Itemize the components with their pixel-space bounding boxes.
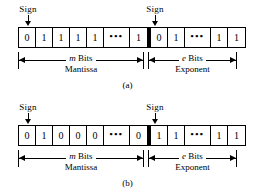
dimension-label-top: e Bits [179, 53, 206, 64]
bit-cell-ellipsis: ••• [104, 126, 130, 145]
dimension-label-bottom: Mantissa [65, 162, 98, 173]
dimension-mantissa-b: m Bits Mantissa [18, 150, 144, 176]
dimension-label-bottom: Mantissa [65, 64, 98, 75]
bit-cell: 0 [53, 126, 70, 145]
dimension-labels: m Bits Mantissa [18, 53, 144, 75]
bit-cell: 1 [36, 126, 53, 145]
bit-cell: 1 [228, 28, 245, 47]
sign-label-mantissa-b: Sign [19, 102, 36, 112]
bit-row-b: 0 1 0 0 0 ••• 0 1 1 ••• 1 1 [18, 125, 246, 146]
bit-cell: 0 [70, 126, 87, 145]
bit-cell: 1 [53, 28, 70, 47]
bit-cell: 1 [211, 126, 228, 145]
sign-callout-mantissa-a: Sign [8, 4, 48, 26]
dimension-exponent-a: e Bits Exponent [148, 52, 237, 78]
sign-label-mantissa-a: Sign [19, 4, 36, 14]
figure-b: Sign Sign 0 1 0 0 0 ••• 0 1 1 ••• 1 1 [0, 98, 255, 196]
dimension-area-b: m Bits Mantissa e Bits Exponent [18, 150, 237, 176]
down-arrow-icon [152, 15, 159, 26]
dimension-labels: e Bits Exponent [148, 53, 237, 75]
bit-cell: 1 [211, 28, 228, 47]
bit-cell: 1 [168, 126, 185, 145]
bit-cell-ellipsis: ••• [185, 28, 211, 47]
sign-label-exponent-a: Sign [146, 4, 163, 14]
down-arrow-icon [25, 113, 32, 124]
dimension-label-top: e Bits [179, 151, 206, 162]
dimension-label-top: m Bits [66, 151, 95, 162]
down-arrow-icon [152, 113, 159, 124]
sign-callout-exponent-b: Sign [135, 102, 175, 124]
bit-cell-ellipsis: ••• [104, 28, 130, 47]
figure-caption-a: (a) [0, 80, 255, 91]
bit-cell: 1 [87, 28, 104, 47]
bit-cell: 0 [19, 126, 36, 145]
sign-callout-mantissa-b: Sign [8, 102, 48, 124]
dimension-label-top: m Bits [66, 53, 95, 64]
dimension-label-bottom: Exponent [175, 64, 210, 75]
dimension-exponent-b: e Bits Exponent [148, 150, 237, 176]
bit-cell: 1 [70, 28, 87, 47]
dimension-label-bottom: Exponent [175, 162, 210, 173]
bit-cell-ellipsis: ••• [185, 126, 211, 145]
down-arrow-icon [25, 15, 32, 26]
bit-cell: 1 [130, 28, 147, 47]
bit-cell: 0 [19, 28, 36, 47]
figure-a: Sign Sign 0 1 1 1 1 ••• 1 0 1 ••• 1 1 [0, 0, 255, 98]
dimension-labels: m Bits Mantissa [18, 151, 144, 173]
bit-cell: 1 [228, 126, 245, 145]
dimension-mantissa-a: m Bits Mantissa [18, 52, 144, 78]
figure-caption-b: (b) [0, 178, 255, 189]
bit-row-a: 0 1 1 1 1 ••• 1 0 1 ••• 1 1 [18, 27, 246, 48]
sign-label-exponent-b: Sign [146, 102, 163, 112]
bit-cell: 1 [36, 28, 53, 47]
bit-cell: 0 [87, 126, 104, 145]
bit-cell: 0 [130, 126, 147, 145]
bit-cell: 1 [151, 126, 168, 145]
bit-cell: 1 [168, 28, 185, 47]
sign-callout-exponent-a: Sign [135, 4, 175, 26]
dimension-labels: e Bits Exponent [148, 151, 237, 173]
bit-cell: 0 [151, 28, 168, 47]
dimension-area-a: m Bits Mantissa e Bits Exponent [18, 52, 237, 78]
